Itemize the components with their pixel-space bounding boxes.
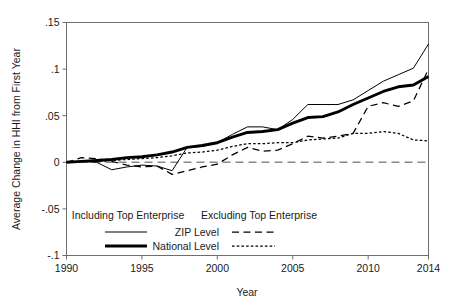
legend-column-header-excluding: Excluding Top Enterprise [201, 209, 317, 221]
chart-figure: -.1-.050.05.1.15 19901995200020052010201… [0, 0, 453, 303]
legend-row-label-national-level: National Level [152, 240, 219, 252]
x-axis-title: Year [236, 286, 258, 298]
y-tick-label: .15 [45, 16, 60, 28]
legend-row-label-zip-level: ZIP Level [175, 226, 219, 238]
x-tick-label: 2000 [206, 262, 230, 274]
x-tick-label: 1995 [130, 262, 154, 274]
y-tick-label: -.05 [41, 203, 59, 215]
y-axis-title: Average Change in HHI from First Year [10, 48, 22, 230]
x-tick-label: 2005 [281, 262, 305, 274]
y-tick-label: -.1 [47, 249, 59, 261]
y-tick-label: .1 [51, 63, 60, 75]
chart-background [0, 0, 453, 303]
x-tick-label: 2010 [356, 262, 380, 274]
y-tick-label: 0 [54, 156, 60, 168]
x-tick-label: 1990 [55, 262, 79, 274]
x-tick-label: 2014 [417, 262, 441, 274]
y-tick-label: .05 [45, 110, 60, 122]
legend-column-header-including: Including Top Enterprise [72, 209, 185, 221]
